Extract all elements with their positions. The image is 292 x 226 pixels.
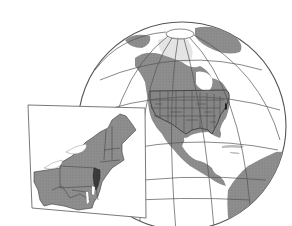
new-jersey-globe-highlight bbox=[225, 103, 227, 110]
inset-panel bbox=[28, 105, 146, 218]
locator-map bbox=[0, 0, 292, 226]
map-svg bbox=[0, 0, 292, 226]
